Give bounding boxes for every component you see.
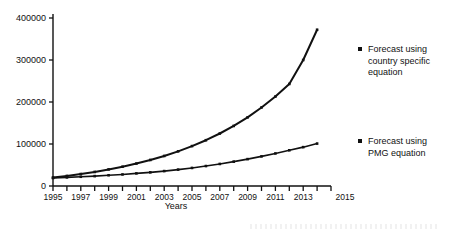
scan-artifact — [250, 224, 440, 229]
forecast-line-chart: 0100000200000300000400000 19951997199920… — [0, 0, 451, 235]
series-marker — [191, 145, 194, 148]
legend-item-pmg: Forecast using PMG equation — [358, 136, 427, 159]
series-marker — [316, 28, 319, 31]
series-marker — [302, 59, 305, 62]
series-marker — [149, 171, 152, 174]
series-marker — [288, 83, 291, 86]
series-marker — [66, 176, 69, 179]
series-marker — [163, 170, 166, 173]
series-marker — [246, 158, 249, 161]
x-tick-label: 2015 — [336, 192, 355, 202]
x-tick-label: 2011 — [266, 192, 285, 202]
y-tick-label: 0 — [41, 181, 46, 191]
legend-item-label: Forecast using PMG equation — [368, 136, 427, 159]
series-marker — [80, 173, 83, 176]
series-marker — [246, 116, 249, 119]
series-marker — [205, 139, 208, 142]
series-marker — [260, 155, 263, 158]
series-marker — [107, 174, 110, 177]
x-tick-label: 1997 — [71, 192, 90, 202]
series-marker — [260, 106, 263, 109]
x-tick-label: 2007 — [210, 192, 229, 202]
x-tick-label: 2009 — [238, 192, 257, 202]
series-marker — [163, 155, 166, 158]
legend-item-country-specific: Forecast using country specific equation — [358, 44, 430, 79]
y-tick-label: 200000 — [16, 97, 46, 107]
series-marker — [232, 160, 235, 163]
series-marker — [191, 167, 194, 170]
x-axis-ticks — [53, 186, 331, 191]
series-marker — [274, 152, 277, 155]
series-marker — [107, 168, 110, 171]
series-marker — [219, 132, 222, 135]
x-tick-label: 1995 — [44, 192, 63, 202]
series-marker — [205, 165, 208, 168]
chart-plot-area: 0100000200000300000400000 19951997199920… — [0, 0, 451, 235]
y-tick-label: 300000 — [16, 55, 46, 65]
series-marker — [52, 177, 55, 180]
y-axis-tick-labels: 0100000200000300000400000 — [16, 13, 46, 191]
series-marker — [302, 146, 305, 149]
series-marker — [316, 142, 319, 145]
series-marker — [177, 168, 180, 171]
x-tick-label: 1999 — [99, 192, 118, 202]
series-marker — [135, 172, 138, 175]
x-axis-tick-labels: 1995199719992001200320052007200920112013… — [44, 192, 355, 202]
series-marker — [135, 162, 138, 165]
x-tick-label: 2001 — [127, 192, 146, 202]
series-line — [53, 30, 317, 178]
legend-marker-square-icon — [358, 139, 362, 143]
series-marker — [288, 149, 291, 152]
series-marker — [93, 171, 96, 174]
series-marker — [121, 173, 124, 176]
data-series-group — [52, 28, 319, 179]
series-marker — [121, 165, 124, 168]
x-tick-label: 2013 — [294, 192, 313, 202]
series-marker — [219, 163, 222, 166]
y-tick-label: 100000 — [16, 139, 46, 149]
series-marker — [274, 95, 277, 98]
series-marker — [177, 150, 180, 153]
series-marker — [149, 159, 152, 162]
series-marker — [80, 175, 83, 178]
legend-item-label: Forecast using country specific equation — [368, 44, 430, 79]
y-tick-label: 400000 — [16, 13, 46, 23]
x-axis-title: Years — [165, 201, 188, 211]
series-marker — [93, 175, 96, 178]
legend-marker-square-icon — [358, 47, 362, 51]
series-marker — [232, 125, 235, 128]
